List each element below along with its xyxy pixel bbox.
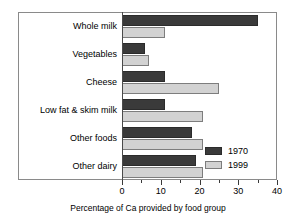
x-tick-major xyxy=(238,180,239,185)
bar-1999-cheese xyxy=(122,83,219,94)
bar-1999-whole-milk xyxy=(122,27,165,38)
bar-1970-whole-milk xyxy=(122,15,258,26)
x-axis-label: Percentage of Ca provided by food group xyxy=(0,203,296,213)
x-tick-label: 40 xyxy=(272,186,282,196)
x-tick-major xyxy=(161,180,162,185)
bar-1970-vegetables xyxy=(122,43,145,54)
x-tick-major xyxy=(200,180,201,185)
legend: 1970 1999 xyxy=(205,144,265,172)
legend-item-1970[interactable]: 1970 xyxy=(205,144,265,158)
value-axis-baseline xyxy=(122,12,123,180)
x-tick-label: 0 xyxy=(119,186,124,196)
x-tick-label: 20 xyxy=(194,186,204,196)
x-tick-label: 30 xyxy=(233,186,243,196)
legend-label-1970: 1970 xyxy=(228,146,248,156)
x-tick-minor xyxy=(258,180,259,183)
legend-swatch-1970 xyxy=(205,147,222,155)
legend-swatch-1999 xyxy=(205,161,222,169)
bar-1999-other-foods xyxy=(122,139,203,150)
category-label: Cheese xyxy=(86,77,117,87)
category-label: Other foods xyxy=(70,133,117,143)
x-tick-label: 10 xyxy=(156,186,166,196)
x-tick-minor xyxy=(180,180,181,183)
category-label: Other dairy xyxy=(72,161,117,171)
bar-1970-other-dairy xyxy=(122,155,196,166)
bar-1970-low-fat-skim-milk xyxy=(122,99,165,110)
category-label: Low fat & skim milk xyxy=(40,105,117,115)
legend-item-1999[interactable]: 1999 xyxy=(205,158,265,172)
x-tick-major xyxy=(277,180,278,185)
x-tick-major xyxy=(122,180,123,185)
bar-chart-figure: Whole milkVegetablesCheeseLow fat & skim… xyxy=(0,0,296,222)
category-label: Whole milk xyxy=(73,21,117,31)
bar-1999-other-dairy xyxy=(122,167,203,178)
bar-1999-low-fat-skim-milk xyxy=(122,111,203,122)
legend-label-1999: 1999 xyxy=(228,160,248,170)
bar-1970-cheese xyxy=(122,71,165,82)
x-tick-minor xyxy=(141,180,142,183)
bar-1970-other-foods xyxy=(122,127,192,138)
category-label: Vegetables xyxy=(72,49,117,59)
category-axis: Whole milkVegetablesCheeseLow fat & skim… xyxy=(18,12,122,180)
x-tick-minor xyxy=(219,180,220,183)
bar-1999-vegetables xyxy=(122,55,149,66)
